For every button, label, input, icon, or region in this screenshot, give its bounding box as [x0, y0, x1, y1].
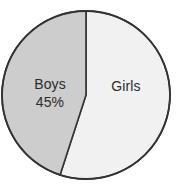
pie-chart-figure: Boys 45% Girls [0, 0, 176, 191]
pie-chart-svg [0, 0, 176, 191]
